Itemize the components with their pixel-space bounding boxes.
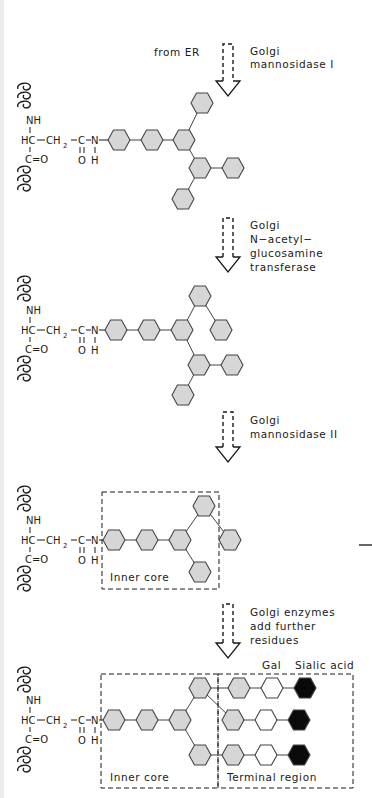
down-arrow-icon xyxy=(216,447,240,462)
sugar-hexagon-icon xyxy=(189,745,211,765)
galactose-hexagon-icon xyxy=(255,745,277,765)
amide-carbon: C xyxy=(78,135,85,146)
step-label: glucosamine xyxy=(250,247,323,259)
sugar-hexagon-icon xyxy=(169,710,191,730)
hc-group: HC xyxy=(21,135,36,146)
amide-nitrogen: N xyxy=(91,715,98,726)
region-label: Inner core xyxy=(110,571,169,583)
sugar-hexagon-icon xyxy=(105,320,127,340)
step-label: Golgi enzymes xyxy=(250,606,335,618)
ch2-group: CH xyxy=(46,325,61,336)
region-label: Terminal region xyxy=(226,771,317,783)
backbone-carbonyl: C=O xyxy=(25,154,48,165)
step-label: mannosidase II xyxy=(250,428,338,440)
amide-carbon: C xyxy=(78,325,85,336)
sugar-hexagon-icon xyxy=(103,530,125,550)
sugar-hexagon-icon xyxy=(222,710,244,730)
panel-3: Golgimannosidase IINHHCCH2CNC=OOHInner c… xyxy=(18,412,338,591)
sugar-hexagon-icon xyxy=(141,130,163,150)
step-label: Sialic acid xyxy=(295,659,354,671)
sugar-hexagon-icon xyxy=(172,385,194,405)
amide-hydrogen: H xyxy=(91,155,99,166)
protein-helix-bottom-icon xyxy=(18,747,31,772)
nh-group: NH xyxy=(26,695,41,706)
step-label: Golgi xyxy=(250,414,280,426)
protein-helix-top-icon xyxy=(18,486,31,511)
sugar-hexagon-icon xyxy=(193,496,215,516)
amide-carbon: C xyxy=(78,535,85,546)
backbone-carbonyl: C=O xyxy=(25,554,48,565)
hc-group: HC xyxy=(21,325,36,336)
amide-hydrogen: H xyxy=(91,735,99,746)
sugar-hexagon-icon xyxy=(171,320,193,340)
amide-nitrogen: N xyxy=(91,135,98,146)
sugar-hexagon-icon xyxy=(222,158,244,178)
protein-helix-bottom-icon xyxy=(18,166,31,191)
sugar-hexagon-icon xyxy=(191,93,213,113)
region-label: Inner core xyxy=(110,771,169,783)
sugar-hexagon-icon xyxy=(222,745,244,765)
panel-1: from ERGolgimannosidase INHHCCH2CNC=OOH xyxy=(18,44,334,209)
process-arrow-shaft xyxy=(223,412,233,447)
step-label: mannosidase I xyxy=(250,58,334,70)
ch2-subscript: 2 xyxy=(63,142,67,150)
sialic-acid-hexagon-icon xyxy=(294,678,316,698)
amide-carbon: C xyxy=(78,715,85,726)
ch2-group: CH xyxy=(46,135,61,146)
sugar-hexagon-icon xyxy=(169,530,191,550)
hc-group: HC xyxy=(21,715,36,726)
galactose-hexagon-icon xyxy=(255,710,277,730)
nh-group: NH xyxy=(26,305,41,316)
ch2-group: CH xyxy=(46,715,61,726)
galactose-hexagon-icon xyxy=(261,678,283,698)
amide-nitrogen: N xyxy=(91,325,98,336)
sugar-hexagon-icon xyxy=(228,678,250,698)
step-label: Golgi xyxy=(250,45,280,57)
sugar-hexagon-icon xyxy=(172,189,194,209)
sugar-hexagon-icon xyxy=(219,530,241,550)
backbone-carbonyl: C=O xyxy=(25,344,48,355)
glycosylation-diagram: from ERGolgimannosidase INHHCCH2CNC=OOHG… xyxy=(0,0,372,798)
backbone-carbonyl: C=O xyxy=(25,734,48,745)
amide-oxygen: O xyxy=(78,735,86,746)
sugar-hexagon-icon xyxy=(221,355,243,375)
ch2-group: CH xyxy=(46,535,61,546)
sugar-hexagon-icon xyxy=(188,355,210,375)
protein-helix-bottom-icon xyxy=(18,566,31,591)
hc-group: HC xyxy=(21,535,36,546)
protein-helix-top-icon xyxy=(18,276,31,301)
amide-oxygen: O xyxy=(78,555,86,566)
sugar-hexagon-icon xyxy=(173,130,195,150)
ch2-subscript: 2 xyxy=(63,542,67,550)
ch2-subscript: 2 xyxy=(63,332,67,340)
sugar-hexagon-icon xyxy=(189,678,211,698)
nh-group: NH xyxy=(26,115,41,126)
process-arrow-shaft xyxy=(223,44,233,81)
sugar-hexagon-icon xyxy=(189,562,211,582)
panel-4: Golgi enzymesadd furtherresiduesGalSiali… xyxy=(18,604,355,788)
amide-nitrogen: N xyxy=(91,535,98,546)
protein-helix-top-icon xyxy=(18,83,31,108)
sugar-hexagon-icon xyxy=(136,710,158,730)
down-arrow-icon xyxy=(216,257,240,272)
panel-2: GolgiN−acetyl−glucosaminetransferaseNHHC… xyxy=(18,218,324,405)
nh-group: NH xyxy=(26,515,41,526)
sugar-hexagon-icon xyxy=(103,710,125,730)
process-arrow-shaft xyxy=(223,218,233,257)
sugar-hexagon-icon xyxy=(210,320,232,340)
down-arrow-icon xyxy=(216,81,240,96)
sialic-acid-hexagon-icon xyxy=(288,710,310,730)
protein-helix-bottom-icon xyxy=(18,356,31,381)
down-arrow-icon xyxy=(216,643,240,658)
step-label: add further xyxy=(250,620,316,632)
amide-hydrogen: H xyxy=(91,555,99,566)
sugar-hexagon-icon xyxy=(136,530,158,550)
amide-oxygen: O xyxy=(78,345,86,356)
step-label: Golgi xyxy=(250,219,280,231)
process-arrow-shaft xyxy=(223,604,233,643)
step-label: transferase xyxy=(250,261,316,273)
ch2-subscript: 2 xyxy=(63,722,67,730)
sugar-hexagon-icon xyxy=(189,158,211,178)
sugar-hexagon-icon xyxy=(138,320,160,340)
sugar-hexagon-icon xyxy=(108,130,130,150)
